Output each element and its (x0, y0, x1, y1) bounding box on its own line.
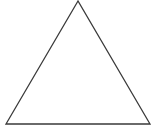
diagram-canvas (0, 0, 154, 133)
